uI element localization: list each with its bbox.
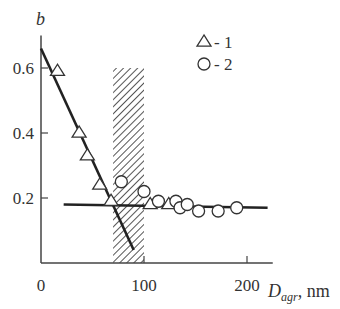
circle-marker bbox=[115, 176, 127, 188]
triangle-marker bbox=[93, 178, 107, 189]
data-points bbox=[50, 64, 242, 217]
chart: 0.20.40.60100200 - 1- 2 bDagr, nm bbox=[0, 0, 340, 309]
triangle-marker bbox=[72, 126, 86, 137]
axis-labels: bDagr, nm bbox=[36, 9, 330, 304]
circle-marker bbox=[231, 202, 243, 214]
legend: - 1- 2 bbox=[197, 33, 232, 74]
circle-marker bbox=[181, 199, 193, 211]
hatched-band bbox=[113, 68, 144, 263]
y-axis-label: b bbox=[36, 9, 45, 29]
x-tick-label: 100 bbox=[131, 276, 157, 295]
fit-lines bbox=[41, 49, 268, 251]
y-tick-label: 0.2 bbox=[13, 189, 34, 208]
triangle-marker bbox=[50, 64, 64, 75]
legend-triangle-icon bbox=[197, 35, 211, 46]
circle-marker bbox=[138, 186, 150, 198]
circle-marker bbox=[212, 205, 224, 217]
circle-marker bbox=[152, 195, 164, 207]
legend-label-1: - 1 bbox=[214, 33, 232, 52]
triangle-marker bbox=[80, 149, 94, 160]
circle-marker bbox=[193, 205, 205, 217]
y-tick-label: 0.6 bbox=[13, 59, 34, 78]
x-tick-label: 200 bbox=[234, 276, 260, 295]
x-tick-label: 0 bbox=[37, 276, 46, 295]
hatched-region bbox=[113, 68, 144, 263]
legend-circle-icon bbox=[198, 58, 210, 70]
x-axis-label: Dagr, nm bbox=[267, 281, 330, 304]
legend-label-2: - 2 bbox=[214, 55, 232, 74]
y-tick-label: 0.4 bbox=[13, 124, 35, 143]
